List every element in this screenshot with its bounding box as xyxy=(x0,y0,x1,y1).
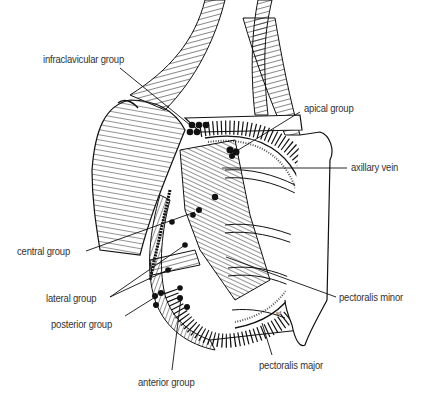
label-axillary-vein: axillary vein xyxy=(351,161,398,173)
label-central-group: central group xyxy=(17,245,70,257)
pectoralis-minor-muscle xyxy=(180,140,270,300)
label-apical-group: apical group xyxy=(304,102,353,114)
label-lateral-group: lateral group xyxy=(46,292,96,304)
artist-signature: sd xyxy=(276,310,281,316)
anatomy-figure: sd infraclavicular group apical group ax… xyxy=(0,0,430,404)
label-pectoralis-major: pectoralis major xyxy=(259,359,323,371)
label-pectoralis-minor: pectoralis minor xyxy=(339,291,403,303)
label-infraclavicular-group: infraclavicular group xyxy=(43,53,124,65)
label-posterior-group: posterior group xyxy=(51,318,112,330)
label-anterior-group: anterior group xyxy=(138,376,194,388)
scapula xyxy=(285,132,332,346)
